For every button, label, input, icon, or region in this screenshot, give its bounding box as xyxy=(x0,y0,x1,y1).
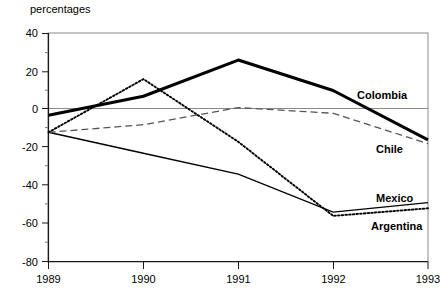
series-label-mexico: Mexico xyxy=(376,192,414,204)
series-label-argentina: Argentina xyxy=(371,220,423,232)
y-tick-label-40: 40 xyxy=(26,27,38,39)
x-tick-label-1992: 1992 xyxy=(321,273,345,285)
series-line-chile xyxy=(49,108,429,144)
x-tick-label-1989: 1989 xyxy=(36,273,60,285)
y-tick-label-20: 20 xyxy=(26,66,38,78)
y-tick-label-minus-60: -60 xyxy=(22,217,38,229)
series-label-colombia: Colombia xyxy=(357,89,408,101)
y-tick-label-minus-80: -80 xyxy=(22,256,38,268)
y-tick-label-minus-20: -20 xyxy=(22,141,38,153)
x-tick-label-1990: 1990 xyxy=(131,273,155,285)
y-tick-label-0: 0 xyxy=(32,103,38,115)
x-tick-label-1991: 1991 xyxy=(226,273,250,285)
series-label-chile: Chile xyxy=(376,143,403,155)
series-line-mexico xyxy=(49,132,429,212)
y-tick-label-minus-40: -40 xyxy=(22,179,38,191)
chart-container: percentages xyxy=(0,0,448,295)
x-tick-label-1993: 1993 xyxy=(416,273,440,285)
line-chart-plot: 40 20 0 -20 -40 -60 -80 1989 1990 1991 1… xyxy=(0,0,448,295)
y-axis-major-ticks xyxy=(42,34,48,262)
x-axis-ticks xyxy=(49,262,429,269)
